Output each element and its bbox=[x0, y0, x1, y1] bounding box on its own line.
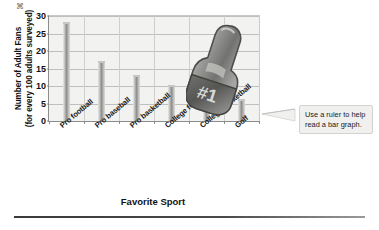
y-axis-tick-label: 10 bbox=[24, 81, 46, 91]
y-axis-tick-mark bbox=[47, 33, 50, 34]
x-axis-tick-mark bbox=[189, 121, 190, 124]
y-axis-tick-label: 0 bbox=[24, 116, 46, 126]
bar-graph-figure: ⌘ Number of Adult Fans (for every 100 ad… bbox=[0, 0, 379, 230]
x-axis-tick-mark bbox=[259, 121, 260, 124]
y-axis-tick-label: 25 bbox=[24, 29, 46, 39]
y-axis-tick-label: 15 bbox=[24, 64, 46, 74]
page-divider-rule bbox=[14, 216, 365, 218]
callout-note: Use a ruler to help read a bar graph. bbox=[299, 105, 373, 134]
callout-line-1: Use a ruler to help bbox=[305, 110, 368, 120]
x-axis-title: Favorite Sport bbox=[48, 196, 258, 207]
bar bbox=[63, 22, 70, 121]
y-axis-tick-mark bbox=[47, 121, 50, 122]
bar bbox=[98, 61, 105, 122]
y-axis-title-line1: Number of Adult Fans bbox=[14, 27, 23, 110]
x-axis-tick-mark bbox=[119, 121, 120, 124]
y-axis-tick-mark bbox=[47, 16, 50, 17]
y-axis-tick-mark bbox=[47, 68, 50, 69]
y-axis-tick-label: 20 bbox=[24, 46, 46, 56]
y-axis-tick-mark bbox=[47, 103, 50, 104]
callout-line-2: read a bar graph. bbox=[305, 120, 368, 130]
y-axis-tick-label: 5 bbox=[24, 99, 46, 109]
x-axis-tick-mark bbox=[84, 121, 85, 124]
y-axis-tick-mark bbox=[47, 51, 50, 52]
x-axis-tick-mark bbox=[154, 121, 155, 124]
y-axis-tick-mark bbox=[47, 86, 50, 87]
y-axis-tick-label: 30 bbox=[24, 11, 46, 21]
callout-leader-line bbox=[262, 106, 302, 124]
x-axis-tick-mark bbox=[224, 121, 225, 124]
x-axis-tick-mark bbox=[49, 121, 50, 124]
